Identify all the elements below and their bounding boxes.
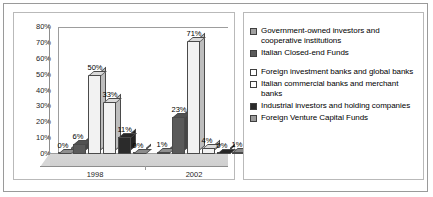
bar-value-label: 0%: [58, 142, 69, 150]
bar-value-label: 71%: [187, 30, 202, 38]
y-axis-tick-mark: [47, 138, 50, 139]
y-axis-tick-mark: [47, 91, 50, 92]
legend-item: Industrial investors and holding compani…: [250, 101, 417, 111]
legend-swatch-icon: [250, 50, 257, 57]
bar: [73, 144, 86, 154]
bar-front-face: [88, 75, 101, 154]
legend-swatch-icon: [250, 81, 257, 88]
bar-value-label: 4%: [202, 137, 213, 145]
bar-value-label: 23%: [172, 106, 187, 114]
legend-item: Government-owned investors and cooperati…: [250, 26, 417, 46]
bar-value-label: 0%: [217, 142, 228, 150]
legend-label: Government-owned investors and cooperati…: [261, 26, 417, 46]
y-axis-tick-mark: [47, 122, 50, 123]
bar-value-label: 6%: [73, 133, 84, 141]
y-axis-tick-mark: [47, 75, 50, 76]
bar-front-face: [118, 137, 131, 154]
x-axis-category-label: 1998: [50, 171, 140, 179]
bar: [118, 137, 131, 154]
chart-frame: 0%10%20%30%40%50%60%70%80% 0%6%50%33%11%…: [3, 3, 428, 192]
bar: [217, 153, 230, 155]
legend-swatch-icon: [250, 28, 257, 35]
bar-value-label: 1%: [232, 141, 243, 149]
x-axis-tick-mark: [145, 166, 146, 170]
legend-swatch-icon: [250, 69, 257, 76]
bar: [58, 153, 71, 155]
chart-legend: Government-owned investors and cooperati…: [243, 12, 424, 180]
x-axis-category-label: 2002: [149, 171, 239, 179]
bar: [172, 117, 185, 154]
bar: [88, 75, 101, 154]
y-axis-tick-mark: [47, 27, 50, 28]
y-axis-tick-mark: [47, 43, 50, 44]
bar-value-label: 50%: [88, 64, 103, 72]
bar-value-label: 11%: [118, 126, 132, 134]
bar-front-face: [172, 117, 185, 154]
y-axis-tick-mark: [47, 106, 50, 107]
legend-label: Italian commercial banks and merchant ba…: [261, 79, 417, 99]
y-axis-tick-mark: [47, 59, 50, 60]
bar: [157, 152, 170, 154]
legend-swatch-icon: [250, 103, 257, 110]
legend-label: Foreign Venture Capital Funds: [261, 113, 368, 123]
legend-swatch-icon: [250, 115, 257, 122]
bar: [133, 153, 146, 155]
bar-front-face: [103, 102, 116, 154]
legend-item: Italian commercial banks and merchant ba…: [250, 79, 417, 99]
bar: [103, 102, 116, 154]
bar-value-label: 33%: [103, 91, 118, 99]
legend-label: Industrial investors and holding compani…: [261, 101, 410, 111]
legend-label: Italian Closed-end Funds: [261, 48, 349, 58]
bar: [187, 41, 200, 154]
legend-item: Foreign Venture Capital Funds: [250, 113, 417, 123]
legend-item: Italian Closed-end Funds: [250, 48, 417, 58]
y-axis-tick-mark: [47, 154, 50, 155]
bar-front-face: [187, 41, 200, 154]
bar-side-face: [200, 33, 205, 150]
legend-label: Foreign investment banks and global bank…: [261, 67, 413, 77]
bar-value-label: 0%: [133, 142, 144, 150]
bar: [202, 148, 215, 154]
bar-value-label: 1%: [157, 141, 168, 149]
legend-item: Foreign investment banks and global bank…: [250, 67, 417, 77]
plot-area: 0%10%20%30%40%50%60%70%80% 0%6%50%33%11%…: [13, 12, 235, 180]
bar-front-face: [73, 144, 86, 154]
